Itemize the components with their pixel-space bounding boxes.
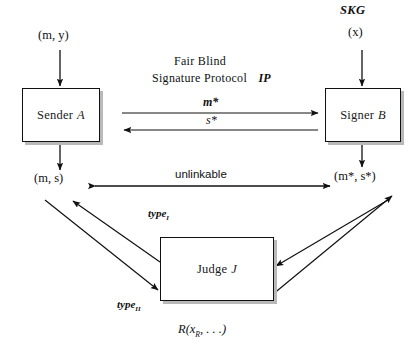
edge-sender-output-to-judge (45, 200, 158, 290)
edge-judge-to-sender-output (73, 201, 160, 262)
protocol-title-line1-text: Fair Blind (174, 54, 226, 68)
protocol-title-line1: Fair Blind (174, 55, 226, 68)
node-judge-j-symbol: J (227, 262, 237, 277)
label-signer-output: (m*, s*) (334, 170, 376, 183)
label-message-forward-text: m* (203, 95, 218, 109)
label-type-two-subscript: II (135, 305, 140, 312)
node-judge-j-label: Judge (197, 262, 227, 277)
label-unlinkable: unlinkable (175, 168, 227, 180)
label-relation: R(xR, . . .) (178, 323, 226, 336)
label-type-two-text: type (117, 298, 135, 310)
protocol-diagram: Sender A Signer B Judge J (m, y) SKG (x)… (0, 0, 420, 355)
label-signer-key-arg: (x) (348, 26, 363, 39)
label-unlinkable-text: unlinkable (175, 168, 227, 180)
node-sender-a-symbol: A (73, 108, 85, 123)
node-signer-b[interactable]: Signer B (325, 88, 401, 142)
node-signer-b-symbol: B (374, 108, 386, 123)
node-judge-j[interactable]: Judge J (160, 237, 274, 301)
protocol-title-ip: IP (250, 71, 271, 85)
protocol-title-line2: Signature Protocol IP (152, 72, 271, 85)
label-sender-input: (m, y) (38, 29, 69, 42)
edge-judge-to-signer-output (272, 196, 392, 295)
label-signer-key-arg-text: (x) (348, 25, 363, 39)
label-message-backward-text: s* (206, 113, 217, 127)
node-signer-b-label: Signer (340, 108, 374, 123)
label-type-one-subscript: I (166, 214, 169, 221)
label-sender-output: (m, s) (34, 172, 63, 185)
label-message-backward: s* (206, 114, 217, 127)
node-sender-a-label: Sender (37, 108, 73, 123)
label-relation-head: R(x (178, 322, 195, 336)
label-signer-key: SKG (340, 4, 366, 17)
node-sender-a[interactable]: Sender A (22, 88, 100, 142)
protocol-title-line2-text: Signature Protocol (152, 71, 247, 85)
label-sender-input-text: (m, y) (38, 28, 69, 42)
label-message-forward: m* (203, 96, 218, 109)
label-signer-output-text: (m*, s*) (334, 169, 376, 183)
label-relation-tail: , . . .) (200, 322, 226, 336)
edge-signer-output-to-judge (276, 200, 388, 266)
label-type-one-text: type (148, 207, 166, 219)
label-type-two: typeII (117, 299, 141, 311)
label-signer-key-text: SKG (340, 3, 366, 17)
label-type-one: typeI (148, 208, 169, 220)
label-sender-output-text: (m, s) (34, 171, 63, 185)
